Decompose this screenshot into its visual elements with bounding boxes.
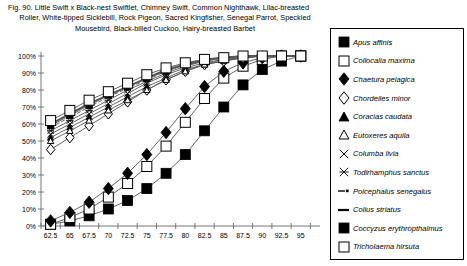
data-point-marker — [339, 223, 349, 233]
data-point-marker — [257, 65, 267, 75]
cross-x-icon — [337, 147, 351, 161]
x-axis-tick-label: 90 — [258, 232, 266, 239]
legend-item-poicephalus-senegalus[interactable]: Poicephalus senegalus — [331, 182, 463, 201]
data-point-marker — [142, 70, 152, 80]
legend-item-label: Columba livia — [351, 149, 399, 158]
legend-item-label: Coccyzus erythropthalmus — [351, 224, 442, 233]
figure-caption: Fig. 90. Little Swift x Black-nest Swift… — [0, 3, 330, 34]
open-square-icon — [337, 240, 351, 254]
data-point-marker — [65, 105, 75, 115]
open-triangle-icon — [337, 128, 351, 142]
data-point-marker — [46, 116, 56, 126]
x-axis-tick-label: 95 — [297, 232, 305, 239]
data-point-marker — [103, 87, 113, 97]
data-point-marker — [180, 150, 190, 160]
legend-item-todirhamphus-sanctus[interactable]: Todirhamphus sanctus — [331, 163, 463, 182]
legend-item-label: Collocalia maxima — [351, 56, 415, 65]
legend-item-label: Eutoxeres aquila — [351, 131, 410, 140]
legend-item-coccyzus-erythropthalmus[interactable]: Coccyzus erythropthalmus — [331, 219, 463, 238]
legend-item-label: Colius striatus — [351, 205, 401, 214]
x-axis-tick-label: 82.5 — [198, 232, 212, 239]
series-chaetura-pelagica — [46, 50, 306, 227]
legend-item-label: Tricholaema hirsuta — [351, 242, 419, 251]
data-point-marker — [142, 184, 152, 194]
data-point-marker — [339, 37, 349, 47]
data-point-marker — [180, 117, 190, 127]
open-diamond-icon — [337, 91, 351, 105]
data-point-marker — [339, 112, 349, 121]
legend-item-eutoxeres-aquila[interactable]: Eutoxeres aquila — [331, 126, 463, 145]
figure-container: Fig. 90. Little Swift x Black-nest Swift… — [0, 0, 467, 266]
caption-line-3: Mousebird, Black-billed Cuckoo, Hairy-br… — [0, 24, 330, 34]
x-axis-labels: 62.56567.57072.57577.58082.58587.59092.5… — [0, 232, 325, 252]
x-axis-tick-label: 80 — [181, 232, 189, 239]
legend-item-tricholaema-hirsuta[interactable]: Tricholaema hirsuta — [331, 238, 463, 257]
data-point-marker — [219, 102, 229, 112]
data-point-marker — [339, 92, 349, 105]
data-point-marker — [296, 51, 306, 61]
legend-item-colius-striatus[interactable]: Colius striatus — [331, 200, 463, 219]
data-point-marker — [123, 196, 133, 206]
data-point-marker — [339, 242, 349, 252]
x-axis-tick-label: 77.5 — [159, 232, 173, 239]
caption-line-2: Roller, White-tipped Sicklebill, Rock Pi… — [0, 13, 330, 23]
legend-item-label: Apus affinis — [351, 38, 392, 47]
legend-item-collocalia-maxima[interactable]: Collocalia maxima — [331, 52, 463, 71]
chart-legend: Apus affinisCollocalia maximaChaetura pe… — [330, 28, 464, 260]
x-axis-tick-label: 65 — [66, 232, 74, 239]
filled-triangle-icon — [337, 110, 351, 124]
legend-item-apus-affinis[interactable]: Apus affinis — [331, 33, 463, 52]
dash-dot-line-icon — [337, 184, 351, 198]
open-square-icon — [337, 54, 351, 68]
x-axis-tick-label: 72.5 — [121, 232, 135, 239]
filled-diamond-icon — [337, 72, 351, 86]
x-axis-tick-label: 70 — [104, 232, 112, 239]
x-axis-tick-label: 87.5 — [236, 232, 250, 239]
data-point-marker — [180, 58, 190, 68]
data-point-marker — [277, 51, 287, 61]
legend-item-label: Chordeiles minor — [351, 94, 410, 103]
data-point-marker — [123, 78, 133, 88]
legend-item-label: Coracias caudata — [351, 112, 412, 121]
legend-item-coracias-caudata[interactable]: Coracias caudata — [331, 107, 463, 126]
data-point-marker — [238, 51, 248, 61]
data-point-marker — [84, 95, 94, 105]
legend-item-chaetura-pelagica[interactable]: Chaetura pelagica — [331, 70, 463, 89]
legend-item-label: Chaetura pelagica — [351, 75, 415, 84]
data-point-marker — [161, 168, 171, 178]
asterisk-icon — [337, 165, 351, 179]
legend-item-label: Poicephalus senegalus — [351, 187, 431, 196]
x-axis-tick-label: 92.5 — [275, 232, 289, 239]
filled-square-icon — [337, 221, 351, 235]
legend-item-chordeiles-minor[interactable]: Chordeiles minor — [331, 89, 463, 108]
data-point-marker — [339, 130, 349, 139]
data-point-marker — [142, 162, 152, 172]
data-point-marker — [161, 141, 171, 151]
data-point-marker — [200, 54, 210, 64]
chart-plot-area: 0%10%20%30%40%50%60%70%80%90%100% 62.565… — [0, 46, 325, 266]
data-point-marker — [46, 144, 54, 155]
data-point-marker — [238, 80, 248, 90]
data-point-marker — [123, 167, 133, 180]
x-axis-tick-label: 67.5 — [82, 232, 96, 239]
x-axis-tick-label: 75 — [143, 232, 151, 239]
data-point-marker — [257, 51, 267, 61]
data-point-marker — [200, 94, 210, 104]
data-point-marker — [103, 204, 113, 214]
x-axis-tick-label: 62.5 — [44, 232, 58, 239]
series-line — [51, 56, 301, 221]
legend-item-columba-livia[interactable]: Columba livia — [331, 145, 463, 164]
data-point-marker — [339, 73, 349, 86]
legend-item-label: Todirhamphus sanctus — [351, 168, 429, 177]
data-point-marker — [219, 53, 229, 63]
data-point-marker — [161, 63, 171, 73]
data-point-marker — [66, 132, 74, 143]
filled-square-icon — [337, 35, 351, 49]
x-axis-tick-label: 85 — [220, 232, 228, 239]
data-point-marker — [200, 126, 210, 136]
data-point-marker — [339, 56, 349, 66]
thick-dash-line-icon — [337, 203, 351, 217]
caption-line-1: Fig. 90. Little Swift x Black-nest Swift… — [0, 3, 330, 13]
